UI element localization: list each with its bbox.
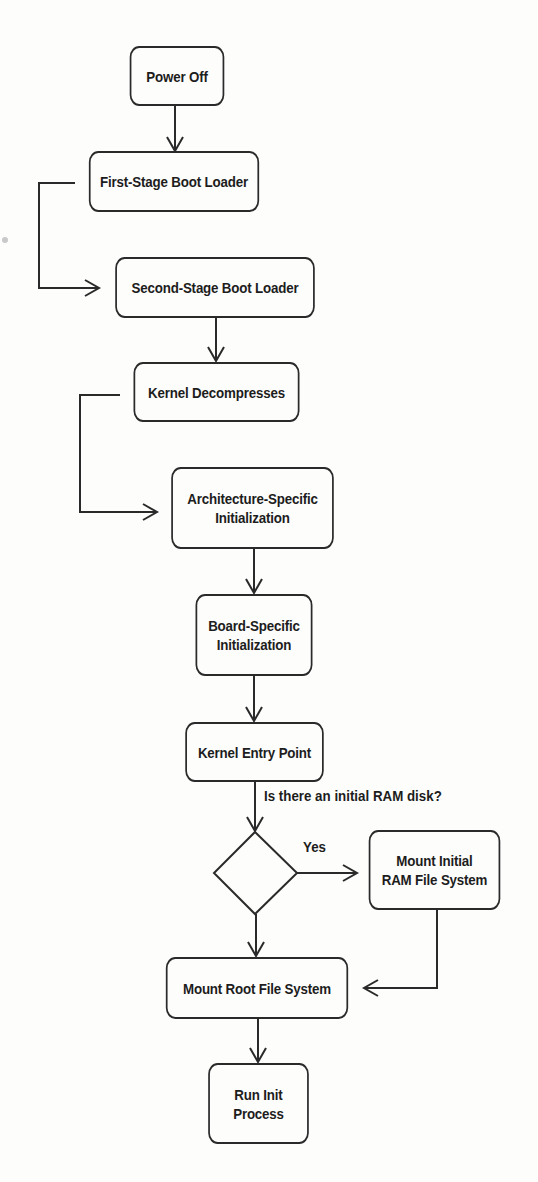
arrow-decision-to-initrd [297,865,357,881]
node-label: Run Init Process [233,1085,284,1123]
node-first-stage-boot-loader: First-Stage Boot Loader [89,151,259,212]
node-label: Second-Stage Boot Loader [132,278,299,297]
node-label: Kernel Entry Point [198,743,311,762]
node-label: Power Off [146,67,207,86]
arrow-decision-to-root [248,914,264,956]
node-label: Kernel Decompresses [148,383,285,402]
node-kernel-entry-point: Kernel Entry Point [185,722,323,782]
node-mount-initial-ram-fs: Mount Initial RAM File System [369,830,501,910]
arrow-board-to-entry [246,676,262,721]
node-architecture-specific-init: Architecture-Specific Initialization [171,467,334,549]
node-label: Mount Initial RAM File System [382,851,488,889]
flowchart-canvas: Power Off First-Stage Boot Loader Second… [0,0,538,1182]
arrow-arch-to-board [246,549,262,593]
arrow-initrd-to-root [364,910,437,996]
node-run-init-process: Run Init Process [208,1063,309,1144]
arrow-power-to-first [167,106,183,151]
node-label: Mount Root File System [183,979,331,998]
arrow-root-to-init [250,1019,266,1062]
arrow-second-to-decompress [208,318,224,361]
node-power-off: Power Off [130,46,225,106]
node-kernel-decompresses: Kernel Decompresses [134,362,300,422]
node-label: First-Stage Boot Loader [100,172,248,191]
scan-speck [2,237,8,243]
node-board-specific-init: Board-Specific Initialization [196,594,313,676]
decision-question: Is there an initial RAM disk? [264,787,442,805]
node-label: Board-Specific Initialization [208,616,300,654]
decision-diamond [214,832,297,914]
node-mount-root-fs: Mount Root File System [166,957,348,1019]
node-label: Architecture-Specific Initialization [187,489,317,527]
decision-yes-label: Yes [303,838,326,856]
arrow-entry-to-decision [247,782,263,831]
node-second-stage-boot-loader: Second-Stage Boot Loader [115,257,315,318]
